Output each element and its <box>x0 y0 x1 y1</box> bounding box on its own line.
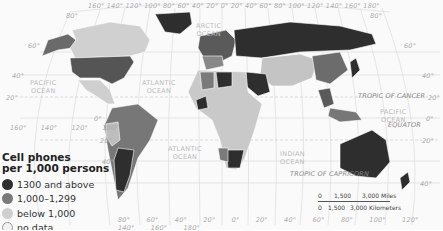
legend-item: below 1,000 <box>2 206 122 221</box>
scale-km-0: 0 <box>318 204 322 211</box>
legend-label: 1,000–1,299 <box>17 193 76 204</box>
swatch-icon <box>2 193 13 204</box>
scale-line <box>318 201 390 202</box>
lat-label-80-left: 80° <box>66 12 78 20</box>
lat-label: 0° <box>426 115 434 123</box>
swatch-icon <box>2 179 13 190</box>
lat-label: 60° <box>28 42 40 50</box>
scale-miles-1: 1,500 <box>334 192 351 199</box>
scale-km-1: 1,500 <box>328 204 345 211</box>
tropic-of-cancer-label: TROPIC OF CANCER <box>358 92 425 100</box>
lon-label-bottom: 80° 60° 40° 20° 0° 20° 40° 60° 80° 100° … <box>118 216 443 230</box>
legend-item: 1,000–1,299 <box>2 192 122 207</box>
legend-title-line2: per 1,000 persons <box>2 163 122 174</box>
legend: Cell phones per 1,000 persons 1300 and a… <box>2 152 122 230</box>
tropic-of-capricorn-label: TROPIC OF CAPRICORN <box>290 170 369 178</box>
lat-label: 40° <box>422 72 434 80</box>
lat-label: 20° <box>422 137 434 145</box>
lat-label: 20° <box>6 94 18 102</box>
legend-label: below 1,000 <box>17 208 75 219</box>
legend-item: no data <box>2 221 122 231</box>
ocean-label-atlantic-south: ATLANTIC OCEAN <box>168 145 202 161</box>
lon-label-mid: 160° 140° 120° 100° <box>10 124 119 132</box>
lat-label-80-right: 80° <box>370 12 382 20</box>
lat-label: 20° <box>100 137 112 145</box>
ocean-label-atlantic-north: ATLANTIC OCEAN <box>142 79 176 95</box>
swatch-icon <box>2 208 13 219</box>
lat-label: 0° <box>94 115 102 123</box>
swatch-icon <box>2 222 13 230</box>
legend-label: no data <box>17 222 53 230</box>
lat-label: 40° <box>420 180 432 188</box>
ocean-label-pacific: PACIFIC OCEAN <box>30 79 57 95</box>
scale-miles-0: 0 <box>318 192 322 199</box>
lat-label: 20° <box>428 94 440 102</box>
legend-item: 1300 and above <box>2 177 122 192</box>
ocean-label-indian: INDIAN OCEAN <box>280 150 305 166</box>
scale-km-2: 3,000 Kilometers <box>350 204 401 211</box>
world-map: 160° 140° 120° 100° 80° 60° 40° 20° 0° 2… <box>0 0 443 230</box>
lat-label: 60° <box>404 42 416 50</box>
legend-label: 1300 and above <box>17 179 94 190</box>
scale-bar: 0 1,500 3,000 Miles 0 1,500 3,000 Kilome… <box>318 192 408 214</box>
lon-label-top: 160° 140° 120° 100° 80° 60° 40° 20° 0° 2… <box>88 2 380 10</box>
ocean-label-arctic: ARCTIC OCEAN <box>196 22 221 38</box>
scale-miles-2: 3,000 Miles <box>362 192 396 199</box>
lat-label: 40° <box>12 72 24 80</box>
equator-label: EQUATOR <box>388 121 421 129</box>
